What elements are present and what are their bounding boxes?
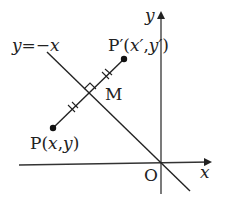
label-p-prime: P′(x′,y′) xyxy=(108,37,169,54)
line-label-y: y xyxy=(12,35,22,55)
p-prime-y: y′ xyxy=(149,35,162,55)
point-p xyxy=(50,125,56,131)
paren-close: ) xyxy=(73,133,80,153)
label-x-axis: x xyxy=(200,164,210,181)
reflection-diagram: y=−x P′(x′,y′) M P(x,y) O x y xyxy=(0,0,225,208)
x-axis xyxy=(19,162,210,165)
label-p: P(x,y) xyxy=(30,135,79,152)
line-y-neg-x xyxy=(47,52,190,191)
paren-close: ) xyxy=(162,35,169,55)
p-name: P xyxy=(30,133,41,153)
p-y: y xyxy=(63,133,73,153)
p-prime-name: P′ xyxy=(108,35,123,55)
line-label-rhs: −x xyxy=(36,35,60,55)
p-prime-x: x′ xyxy=(130,35,143,55)
line-label-eq: = xyxy=(22,35,36,55)
paren-open: ( xyxy=(123,35,130,55)
point-p-prime xyxy=(121,56,127,62)
tick-marks-upper xyxy=(102,69,112,79)
label-origin: O xyxy=(144,167,158,184)
tick-marks-lower xyxy=(68,102,78,112)
diagram-graphics xyxy=(0,0,225,208)
label-m: M xyxy=(105,86,122,103)
p-x: x xyxy=(48,133,58,153)
line-label: y=−x xyxy=(12,37,60,54)
label-y-axis: y xyxy=(145,7,155,24)
